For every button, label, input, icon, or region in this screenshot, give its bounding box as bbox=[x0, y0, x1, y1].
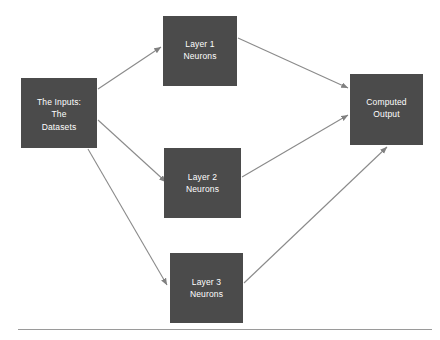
input-node[interactable]: The Inputs: The Datasets bbox=[21, 78, 97, 148]
input-node-line-2: The bbox=[51, 108, 66, 120]
layer-1-node[interactable]: Layer 1 Neurons bbox=[163, 16, 237, 86]
output-node[interactable]: Computed Output bbox=[350, 74, 423, 145]
edge-input-to-layer1 bbox=[98, 47, 161, 89]
edge-layer3-to-output bbox=[244, 147, 387, 283]
input-node-line-3: Datasets bbox=[42, 121, 77, 133]
layer-1-node-line-1: Layer 1 bbox=[185, 38, 214, 50]
bottom-divider bbox=[18, 329, 432, 330]
edge-input-to-layer3 bbox=[88, 149, 167, 285]
layer-2-node[interactable]: Layer 2 Neurons bbox=[164, 148, 241, 218]
layer-3-node[interactable]: Layer 3 Neurons bbox=[170, 253, 243, 323]
layer-2-node-line-2: Neurons bbox=[186, 183, 219, 195]
diagram-canvas: The Inputs: The Datasets Layer 1 Neurons… bbox=[0, 0, 440, 340]
layer-3-node-line-1: Layer 3 bbox=[192, 276, 221, 288]
layer-2-node-line-1: Layer 2 bbox=[188, 171, 217, 183]
layer-3-node-line-2: Neurons bbox=[190, 288, 223, 300]
edge-layer2-to-output bbox=[242, 115, 348, 177]
output-node-line-1: Computed bbox=[366, 96, 406, 108]
input-node-line-1: The Inputs: bbox=[37, 96, 81, 108]
layer-1-node-line-2: Neurons bbox=[183, 50, 216, 62]
edge-input-to-layer2 bbox=[98, 120, 166, 182]
output-node-line-2: Output bbox=[373, 108, 399, 120]
edge-layer1-to-output bbox=[238, 38, 348, 88]
